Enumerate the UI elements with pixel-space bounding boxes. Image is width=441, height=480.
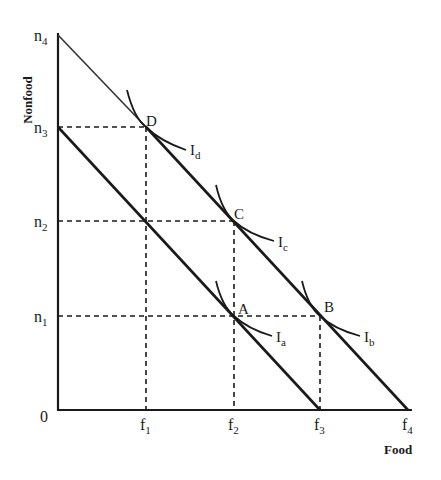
- budget-line-outer: [146, 127, 408, 410]
- budget-constraint-diagram: n4 n3 n2 n1 0 f1 f2 f3 f4 Food Nonfood D…: [0, 0, 441, 480]
- x-tick-f3: f3: [314, 416, 325, 436]
- point-label-d: D: [146, 113, 157, 129]
- x-tick-f4: f4: [402, 416, 413, 436]
- y-tick-n1: n1: [34, 308, 48, 328]
- y-tick-n2: n2: [34, 213, 48, 233]
- curve-label-ib: Ib: [364, 329, 375, 348]
- y-tick-n4: n4: [34, 27, 48, 47]
- x-tick-f2: f2: [228, 416, 239, 436]
- budget-line-outer-upper: [58, 35, 146, 127]
- curve-label-ia: Ia: [276, 329, 286, 348]
- point-label-a: A: [238, 301, 249, 317]
- origin-label: 0: [40, 408, 48, 425]
- curve-label-ic: Ic: [278, 234, 288, 253]
- x-axis-title: Food: [384, 442, 413, 457]
- curve-label-id: Id: [190, 142, 201, 161]
- budget-line-inner: [58, 127, 320, 410]
- x-tick-f1: f1: [140, 416, 151, 436]
- y-tick-n3: n3: [34, 119, 48, 139]
- y-axis-title: Nonfood: [20, 75, 35, 123]
- point-label-b: B: [324, 299, 334, 315]
- point-label-c: C: [234, 206, 244, 222]
